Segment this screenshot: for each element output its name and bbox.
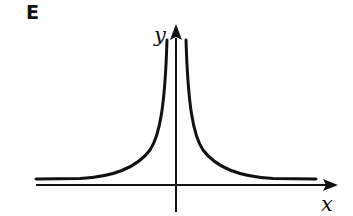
- curve-left-branch: [36, 40, 167, 179]
- curve-right-branch: [186, 40, 316, 179]
- y-axis-arrow-icon: [170, 24, 182, 40]
- x-axis: [36, 179, 338, 191]
- graph: y x: [0, 0, 353, 216]
- y-axis-label: y: [153, 23, 167, 47]
- x-axis-label: x: [321, 192, 333, 216]
- y-axis: [170, 24, 182, 212]
